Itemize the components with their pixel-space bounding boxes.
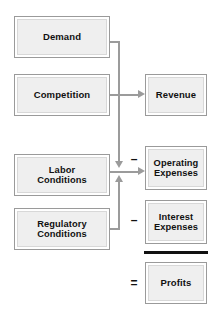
node-competition-label: Competition bbox=[17, 77, 107, 113]
operator-minus-operating-expenses: – bbox=[128, 153, 140, 165]
node-revenue-label: Revenue bbox=[148, 77, 204, 113]
node-interest-expenses[interactable]: Interest Expenses bbox=[145, 200, 207, 244]
node-revenue[interactable]: Revenue bbox=[145, 74, 207, 116]
node-labor-conditions-line-1: Labor bbox=[49, 165, 75, 175]
node-competition[interactable]: Competition bbox=[14, 74, 110, 116]
node-operating-expenses-line-2: Expenses bbox=[154, 168, 198, 178]
node-regulatory-conditions[interactable]: Regulatory Conditions bbox=[14, 208, 110, 250]
node-operating-expenses-line-1: Operating bbox=[154, 158, 199, 168]
node-interest-expenses-line-2: Expenses bbox=[154, 222, 198, 232]
diagram-canvas: Demand Competition Labor Conditions Regu… bbox=[0, 0, 218, 318]
connector-regulatory-vertical bbox=[118, 181, 120, 230]
node-demand-label: Demand bbox=[17, 19, 107, 55]
connector-demand-vertical bbox=[118, 41, 120, 163]
node-interest-expenses-label: Interest Expenses bbox=[148, 203, 204, 241]
node-operating-expenses-label: Operating Expenses bbox=[148, 149, 204, 187]
connector-demand-arrowhead bbox=[115, 161, 123, 168]
operator-minus-interest-expenses: – bbox=[128, 214, 140, 226]
node-regulatory-conditions-label: Regulatory Conditions bbox=[17, 211, 107, 247]
node-labor-conditions[interactable]: Labor Conditions bbox=[14, 154, 110, 196]
node-profits[interactable]: Profits bbox=[145, 262, 207, 304]
node-labor-conditions-label: Labor Conditions bbox=[17, 157, 107, 193]
node-regulatory-conditions-line-2: Conditions bbox=[37, 229, 87, 239]
connector-competition-line bbox=[110, 94, 139, 96]
node-labor-conditions-line-2: Conditions bbox=[37, 175, 87, 185]
node-demand[interactable]: Demand bbox=[14, 16, 110, 58]
summation-rule bbox=[144, 251, 208, 254]
connector-regulatory-arrowhead bbox=[115, 175, 123, 182]
node-operating-expenses[interactable]: Operating Expenses bbox=[145, 146, 207, 190]
node-profits-label: Profits bbox=[148, 265, 204, 301]
connector-competition-arrowhead bbox=[138, 90, 145, 98]
node-interest-expenses-line-1: Interest bbox=[159, 212, 193, 222]
node-regulatory-conditions-line-1: Regulatory bbox=[37, 219, 87, 229]
operator-equals-profits: = bbox=[128, 277, 140, 289]
connector-junction-to-operating-line bbox=[110, 171, 139, 173]
connector-junction-to-operating-arrowhead bbox=[138, 167, 145, 175]
